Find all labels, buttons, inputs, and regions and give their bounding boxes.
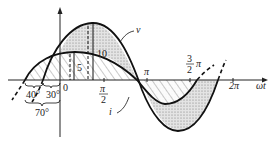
three-pi-over-2-den: 2 (187, 64, 192, 75)
origin-label: 0 (63, 82, 68, 93)
v-label: v (136, 24, 141, 35)
v-amplitude-label: 10 (97, 48, 107, 59)
omega-t-label: ωt (256, 80, 266, 91)
i-amplitude-label: 5 (77, 62, 82, 73)
v-curve-dashed-right (218, 60, 226, 80)
v-leader-line (120, 31, 134, 42)
brace-70 (25, 100, 60, 106)
i-curve-dashed-left (12, 80, 25, 100)
angle-30-label: 30° (46, 89, 60, 100)
angle-40-label: 40° (26, 89, 40, 100)
waveform-diagram: 10 5 v i 0 π 2 π 3 2 π 2π ωt 40° 30° 70° (0, 0, 275, 143)
pi-over-2-den: 2 (101, 94, 106, 105)
three-pi-over-2-suffix: π (196, 58, 202, 69)
two-pi-label: 2π (229, 80, 240, 91)
three-pi-over-2-num: 3 (187, 53, 192, 64)
i-leader-line (117, 97, 129, 113)
brace-30 (43, 83, 60, 88)
angle-70-label: 70° (35, 107, 49, 118)
pi-over-2-num: π (100, 83, 106, 94)
i-label: i (109, 106, 112, 117)
y-axis-arrow-icon (58, 7, 63, 14)
pi-label: π (144, 66, 150, 77)
